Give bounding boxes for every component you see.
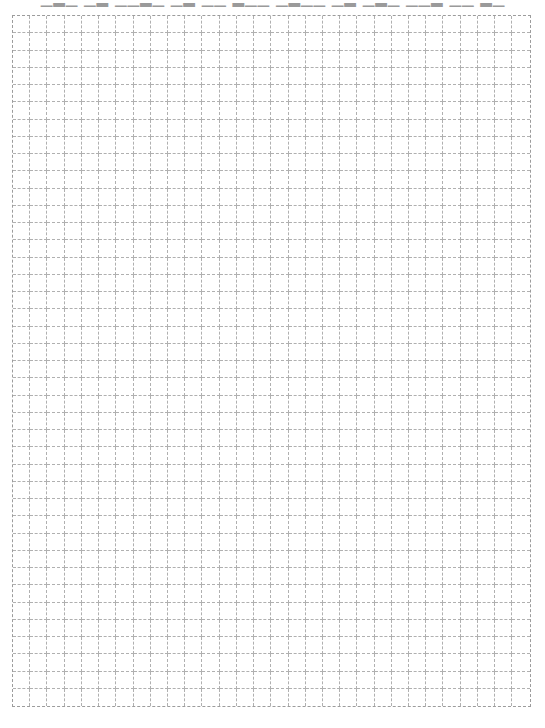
grid-cell [99, 85, 116, 102]
grid-cell [99, 551, 116, 568]
grid-cell [254, 327, 271, 344]
grid-cell [99, 516, 116, 533]
grid-cell [271, 68, 288, 85]
grid-cell [134, 447, 151, 464]
grid-cell [443, 482, 460, 499]
grid-cell [409, 327, 426, 344]
grid-cell [495, 327, 512, 344]
grid-cell [30, 206, 47, 223]
grid-cell [443, 51, 460, 68]
grid-cell [426, 430, 443, 447]
grid-cell [461, 672, 478, 689]
grid-cell [409, 465, 426, 482]
grid-cell [392, 223, 409, 240]
grid-cell [168, 516, 185, 533]
grid-cell [461, 16, 478, 33]
grid-cell [512, 361, 529, 378]
grid-cell [151, 430, 168, 447]
grid-cell [271, 568, 288, 585]
grid-cell [30, 240, 47, 257]
grid-cell [357, 534, 374, 551]
grid-cell [134, 568, 151, 585]
grid-cell [443, 102, 460, 119]
grid-cell [478, 447, 495, 464]
grid-cell [443, 447, 460, 464]
grid-cell [443, 68, 460, 85]
grid-cell [461, 85, 478, 102]
grid-cell [134, 378, 151, 395]
grid-cell [271, 206, 288, 223]
grid-cell [306, 620, 323, 637]
grid-cell [392, 672, 409, 689]
grid-cell [271, 499, 288, 516]
grid-cell [461, 292, 478, 309]
grid-cell [13, 620, 30, 637]
grid-cell [202, 447, 219, 464]
grid-cell [443, 465, 460, 482]
grid-cell [13, 102, 30, 119]
grid-cell [30, 120, 47, 137]
grid-cell [512, 430, 529, 447]
grid-cell [47, 413, 64, 430]
grid-cell [289, 465, 306, 482]
grid-cell [323, 447, 340, 464]
grid-cell [134, 206, 151, 223]
grid-cell [289, 120, 306, 137]
grid-cell [512, 223, 529, 240]
grid-cell [134, 258, 151, 275]
grid-cell [512, 637, 529, 654]
grid-cell [512, 568, 529, 585]
grid-cell [375, 603, 392, 620]
grid-cell [443, 206, 460, 223]
grid-cell [30, 33, 47, 50]
grid-cell [409, 482, 426, 499]
grid-cell [202, 171, 219, 188]
grid-cell [151, 171, 168, 188]
grid-cell [409, 361, 426, 378]
grid-cell [134, 292, 151, 309]
grid-cell [357, 396, 374, 413]
grid-cell [289, 102, 306, 119]
grid-cell [185, 637, 202, 654]
grid-cell [461, 654, 478, 671]
grid-cell [99, 637, 116, 654]
grid-cell [323, 189, 340, 206]
grid-cell [99, 275, 116, 292]
grid-cell [185, 85, 202, 102]
grid-cell [461, 361, 478, 378]
grid-cell [220, 465, 237, 482]
grid-cell [289, 223, 306, 240]
grid-cell [237, 447, 254, 464]
grid-cell [306, 275, 323, 292]
grid-cell [220, 620, 237, 637]
grid-cell [306, 258, 323, 275]
grid-cell [289, 447, 306, 464]
grid-cell [478, 51, 495, 68]
grid-cell [495, 361, 512, 378]
grid-cell [478, 654, 495, 671]
grid-cell [47, 378, 64, 395]
grid-cell [65, 137, 82, 154]
grid-cell [443, 396, 460, 413]
grid-cell [306, 137, 323, 154]
grid-cell [13, 85, 30, 102]
grid-cell [461, 309, 478, 326]
grid-cell [392, 620, 409, 637]
grid-cell [443, 620, 460, 637]
grid-cell [461, 499, 478, 516]
grid-cell [237, 689, 254, 706]
grid-cell [392, 603, 409, 620]
grid-cell [357, 258, 374, 275]
grid-cell [289, 378, 306, 395]
grid-cell [237, 292, 254, 309]
grid-cell [99, 223, 116, 240]
grid-cell [271, 327, 288, 344]
grid-cell [168, 171, 185, 188]
grid-cell [30, 309, 47, 326]
grid-cell [82, 275, 99, 292]
grid-cell [254, 378, 271, 395]
grid-cell [461, 689, 478, 706]
grid-cell [65, 258, 82, 275]
grid-cell [289, 603, 306, 620]
grid-cell [151, 206, 168, 223]
